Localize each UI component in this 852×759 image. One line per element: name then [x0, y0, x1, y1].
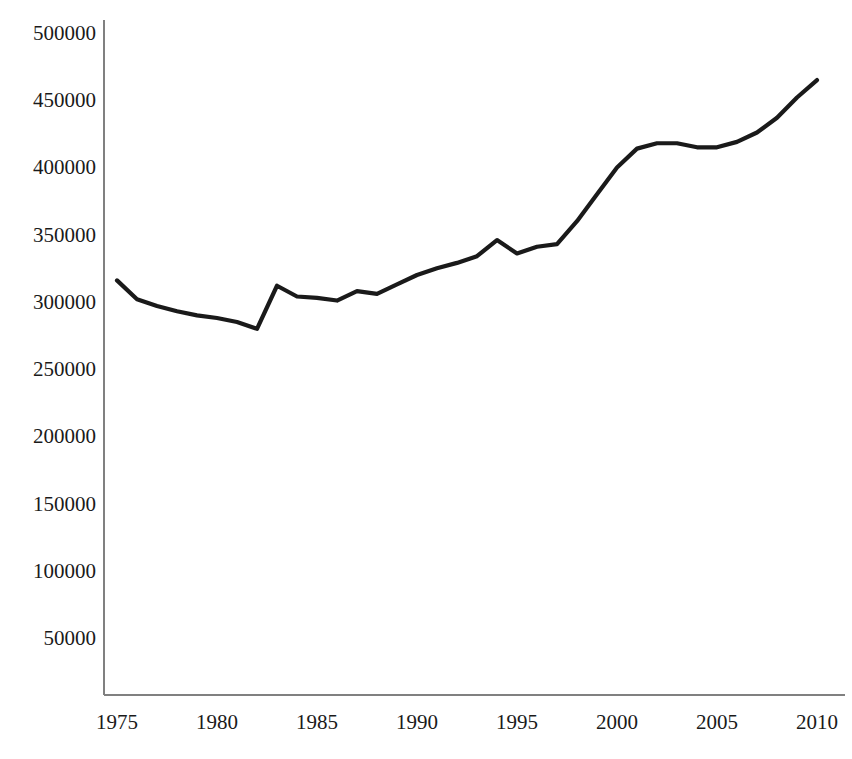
x-tick-label: 1985: [296, 712, 338, 733]
x-tick-label: 2000: [596, 712, 638, 733]
x-tick-label: 1990: [396, 712, 438, 733]
x-tick-label: 1995: [496, 712, 538, 733]
x-tick-label: 2005: [696, 712, 738, 733]
x-axis-tick-labels: 19751980198519901995200020052010: [0, 0, 852, 759]
x-tick-label: 2010: [796, 712, 838, 733]
x-tick-label: 1975: [96, 712, 138, 733]
x-tick-label: 1980: [196, 712, 238, 733]
line-chart: 5000010000015000020000025000030000035000…: [0, 0, 852, 759]
